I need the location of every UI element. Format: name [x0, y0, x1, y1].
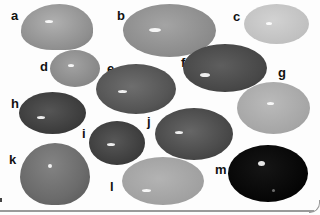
- label-b: b: [117, 9, 125, 22]
- label-h: h: [11, 97, 19, 110]
- cabochon-d: [50, 50, 100, 87]
- label-i: i: [82, 127, 86, 140]
- rounded-corner: [309, 200, 320, 213]
- label-k: k: [9, 153, 16, 166]
- cabochon-a: [21, 4, 93, 50]
- cabochon-g: [237, 82, 310, 134]
- cabochon-k: [20, 143, 90, 205]
- cabochon-l: [122, 157, 204, 205]
- cabochon-e: [96, 64, 176, 114]
- label-l: l: [110, 180, 114, 193]
- cabochon-h: [19, 92, 86, 134]
- label-m: m: [215, 163, 227, 176]
- cabochon-i: [89, 121, 145, 165]
- edge-fragment: [0, 198, 2, 202]
- gemstone-figure: a b c d e f g h i j k: [0, 0, 320, 215]
- label-a: a: [11, 9, 18, 22]
- label-j: j: [147, 115, 151, 128]
- label-g: g: [278, 66, 286, 79]
- label-c: c: [233, 10, 240, 23]
- cabochon-c: [244, 4, 309, 44]
- label-d: d: [40, 60, 48, 73]
- bottom-border: [0, 210, 314, 212]
- cabochon-j: [155, 108, 233, 160]
- cabochon-m: [228, 145, 308, 202]
